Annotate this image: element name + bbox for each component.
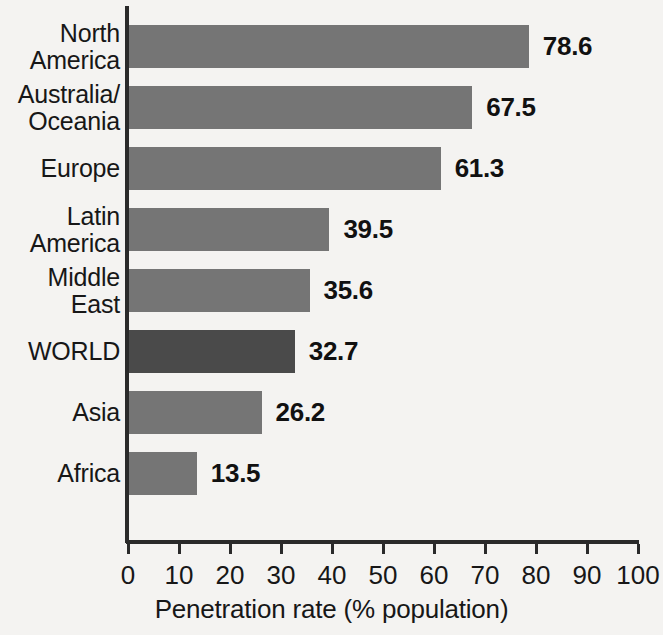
category-label: North America xyxy=(0,20,120,74)
category-label: Middle East xyxy=(0,264,120,318)
bar xyxy=(128,330,295,373)
x-axis-tick-label: 80 xyxy=(522,560,551,590)
x-axis-tick-label: 20 xyxy=(216,560,245,590)
x-axis-tick xyxy=(382,544,385,554)
category-label: Australia/ Oceania xyxy=(0,81,120,135)
x-axis-tick-label: 60 xyxy=(420,560,449,590)
category-label: Europe xyxy=(0,155,120,182)
category-label: Latin America xyxy=(0,203,120,257)
x-axis-tick-label: 40 xyxy=(318,560,347,590)
bar-value-label: 26.2 xyxy=(276,397,325,428)
x-axis-tick xyxy=(535,544,538,554)
x-axis-tick-label: 90 xyxy=(573,560,602,590)
bar-value-label: 13.5 xyxy=(211,458,260,489)
x-axis-tick-label: 50 xyxy=(369,560,398,590)
category-axis-labels: North AmericaAustralia/ OceaniaEuropeLat… xyxy=(0,0,120,520)
bar-chart: North AmericaAustralia/ OceaniaEuropeLat… xyxy=(0,0,663,635)
bar-value-label: 67.5 xyxy=(486,92,535,123)
category-label: Asia xyxy=(0,399,120,426)
category-label: Africa xyxy=(0,460,120,487)
y-axis-line xyxy=(125,6,129,543)
bar xyxy=(128,86,472,129)
plot-area: 78.667.561.339.535.632.726.213.5 xyxy=(128,0,663,543)
x-axis-tick-label: 10 xyxy=(165,560,194,590)
bar xyxy=(128,147,441,190)
bar xyxy=(128,452,197,495)
bar-value-label: 61.3 xyxy=(455,153,504,184)
bar xyxy=(128,25,529,68)
bar xyxy=(128,391,262,434)
x-axis-tick xyxy=(178,544,181,554)
x-axis-tick xyxy=(331,544,334,554)
x-axis-tick xyxy=(229,544,232,554)
x-axis-tick xyxy=(280,544,283,554)
bar xyxy=(128,208,329,251)
bar-value-label: 35.6 xyxy=(324,275,373,306)
x-axis-tick xyxy=(127,544,130,554)
x-axis-tick-label: 30 xyxy=(267,560,296,590)
bar-value-label: 32.7 xyxy=(309,336,358,367)
x-axis-tick xyxy=(433,544,436,554)
x-axis-tick xyxy=(586,544,589,554)
bar xyxy=(128,269,310,312)
x-axis-title: Penetration rate (% population) xyxy=(0,594,663,625)
category-label: WORLD xyxy=(0,338,120,365)
x-axis-tick-label: 70 xyxy=(471,560,500,590)
x-axis-tick xyxy=(484,544,487,554)
bar-value-label: 78.6 xyxy=(543,31,592,62)
x-axis-tick-label: 100 xyxy=(616,560,659,590)
x-axis-tick xyxy=(637,544,640,554)
bar-value-label: 39.5 xyxy=(343,214,392,245)
x-axis-tick-label: 0 xyxy=(121,560,135,590)
